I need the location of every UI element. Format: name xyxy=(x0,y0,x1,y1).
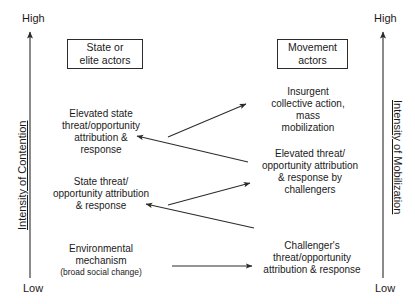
state-or-elite-actors-box: State or elite actors xyxy=(67,39,143,69)
node-elevated-threat-line2: opportunity attribution xyxy=(251,160,369,172)
node-state-threat-line1: State threat/ xyxy=(40,176,162,188)
node-elevated-state-threat-line2: threat/opportunity xyxy=(45,120,157,132)
arrow-challengers-to-state-threat xyxy=(146,204,254,228)
movement-actors-line1: Movement xyxy=(288,41,337,54)
node-state-threat: State threat/ opportunity attribution & … xyxy=(40,176,162,212)
contention-mobilization-diagram: High Low High Low Intensity of Contentio… xyxy=(0,0,415,304)
node-insurgent-line2: collective action, xyxy=(255,98,361,110)
node-state-threat-line3: & response xyxy=(40,200,162,212)
state-actors-line2: elite actors xyxy=(80,54,131,67)
node-elevated-threat-line1: Elevated threat/ xyxy=(251,148,369,160)
node-elevated-state-threat-line4: response xyxy=(45,144,157,156)
node-insurgent-line3: mass xyxy=(255,110,361,122)
node-challengers-threat-line2: threat/opportunity xyxy=(251,252,373,264)
node-state-threat-line2: opportunity attribution xyxy=(40,188,162,200)
left-axis-high-label: High xyxy=(22,12,45,24)
node-insurgent-collective-action: Insurgent collective action, mass mobili… xyxy=(255,86,361,134)
node-insurgent-line4: mobilization xyxy=(255,122,361,134)
node-elevated-state-threat-line3: attribution & xyxy=(45,132,157,144)
left-axis-title: Intensity of Contention xyxy=(16,121,28,230)
node-elevated-threat-line3: & response by xyxy=(251,172,369,184)
node-elevated-threat-challengers: Elevated threat/ opportunity attribution… xyxy=(251,148,369,196)
right-axis-high-label: High xyxy=(374,12,397,24)
node-elevated-threat-line4: challengers xyxy=(251,184,369,196)
node-challengers-threat-line3: attribution & response xyxy=(251,264,373,276)
node-insurgent-line1: Insurgent xyxy=(255,86,361,98)
node-environmental-mechanism-sub: (broad social change) xyxy=(42,267,160,278)
right-axis-low-label: Low xyxy=(375,282,395,294)
left-axis-low-label: Low xyxy=(23,282,43,294)
node-environmental-mechanism-line1: Environmental xyxy=(42,243,160,255)
arrow-challengers-threat-to-elevated-threat xyxy=(168,183,250,205)
node-elevated-state-threat-line1: Elevated state xyxy=(45,108,157,120)
movement-actors-box: Movement actors xyxy=(277,39,348,69)
node-challengers-threat: Challenger's threat/opportunity attribut… xyxy=(251,240,373,276)
movement-actors-line2: actors xyxy=(288,54,337,67)
right-axis-title: Intensity of Mobilization xyxy=(392,100,404,214)
arrow-state-threat-to-insurgent xyxy=(168,104,246,137)
node-environmental-mechanism: Environmental mechanism (broad social ch… xyxy=(42,243,160,278)
node-challengers-threat-line1: Challenger's xyxy=(251,240,373,252)
state-actors-line1: State or xyxy=(80,41,131,54)
node-environmental-mechanism-line2: mechanism xyxy=(42,255,160,267)
node-elevated-state-threat: Elevated state threat/opportunity attrib… xyxy=(45,108,157,156)
